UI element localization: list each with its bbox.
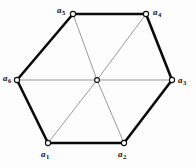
vertex-label-base-a1: a [41, 149, 46, 159]
vertex-label-subscript-a3: 3 [183, 79, 186, 86]
spoke-edge-center-a1 [48, 80, 97, 143]
vertex-label-subscript-a1: 1 [46, 153, 49, 160]
graph-canvas [0, 0, 196, 168]
vertex-label-subscript-a2: 2 [123, 153, 126, 160]
perimeter-edge-a6-a1 [17, 80, 48, 143]
vertex-label-subscript-a5: 5 [62, 9, 65, 16]
vertex-label-base-a6: a [3, 73, 8, 83]
vertex-label-subscript-a6: 6 [8, 77, 11, 84]
perimeter-edge-a2-a3 [124, 80, 172, 143]
vertex-label-base-a3: a [178, 75, 183, 85]
vertex-label-a4: a4 [153, 8, 161, 17]
spoke-edge-center-a4 [97, 14, 146, 80]
vertex-label-subscript-a4: 4 [158, 11, 161, 18]
vertex-node-center[interactable] [95, 78, 100, 83]
vertex-label-a3: a3 [178, 76, 186, 85]
vertex-node-a1[interactable] [45, 140, 50, 145]
vertex-label-a2: a2 [118, 150, 126, 159]
perimeter-edge-a5-a6 [17, 14, 73, 80]
vertex-label-a5: a5 [57, 6, 65, 15]
vertex-label-base-a2: a [118, 149, 123, 159]
hexagon-graph-figure: a1a2a3a4a5a6 [0, 0, 196, 168]
vertex-label-base-a5: a [57, 5, 62, 15]
vertex-label-base-a4: a [153, 7, 158, 17]
perimeter-edge-a3-a4 [146, 14, 172, 80]
vertex-label-a6: a6 [3, 74, 11, 83]
vertex-label-a1: a1 [41, 150, 49, 159]
vertex-node-a2[interactable] [121, 140, 126, 145]
spoke-edge-center-a2 [97, 80, 124, 143]
vertex-node-a3[interactable] [169, 77, 174, 82]
vertex-node-a6[interactable] [14, 77, 19, 82]
vertex-node-a5[interactable] [70, 11, 75, 16]
vertex-node-a4[interactable] [143, 11, 148, 16]
spoke-edge-center-a5 [73, 14, 97, 80]
